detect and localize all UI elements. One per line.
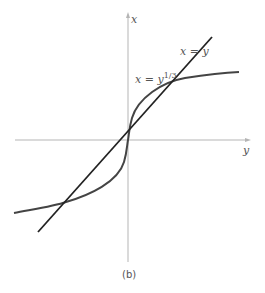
- horizontal-axis-label: y: [243, 145, 249, 156]
- cube-root-curve: [14, 72, 239, 213]
- horizontal-axis-arrow-icon: [245, 138, 251, 142]
- cube-root-label-exponent: 1/3: [164, 71, 177, 80]
- identity-line-label: x = y: [180, 46, 209, 57]
- cube-root-curve-label: x = y1/3: [135, 72, 177, 85]
- plot-area: [0, 0, 265, 293]
- vertical-axis-arrow-icon: [126, 12, 130, 18]
- vertical-axis-label: x: [131, 14, 137, 25]
- cube-root-label-base: x = y: [135, 73, 164, 86]
- figure-caption: (b): [122, 270, 136, 280]
- identity-line: [38, 37, 212, 232]
- figure: x y x = y x = y1/3 (b): [0, 0, 265, 293]
